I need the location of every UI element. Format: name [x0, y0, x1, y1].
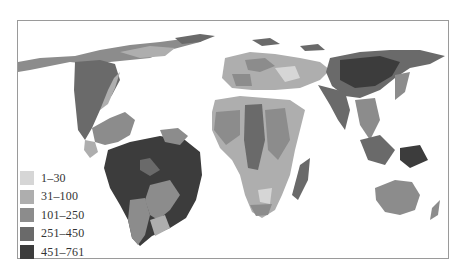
legend-item: 451–761: [20, 243, 84, 262]
legend-label: 31–100: [41, 189, 78, 204]
south-america: [104, 128, 202, 246]
map-legend: 1–30 31–100 101–250 251–450 451–761: [20, 169, 84, 262]
legend-swatch: [20, 190, 34, 204]
legend-item: 1–30: [20, 169, 84, 188]
legend-item: 101–250: [20, 206, 84, 225]
australia: [375, 180, 440, 220]
legend-label: 1–30: [41, 171, 66, 186]
legend-swatch: [20, 227, 34, 241]
asia: [318, 50, 445, 168]
legend-label: 251–450: [41, 226, 84, 241]
legend-label: 101–250: [41, 208, 84, 223]
legend-swatch: [20, 245, 34, 259]
legend-item: 251–450: [20, 225, 84, 244]
legend-swatch: [20, 171, 34, 185]
legend-swatch: [20, 208, 34, 222]
africa: [212, 96, 310, 218]
europe: [222, 52, 330, 90]
legend-label: 451–761: [41, 245, 84, 260]
legend-item: 31–100: [20, 188, 84, 207]
